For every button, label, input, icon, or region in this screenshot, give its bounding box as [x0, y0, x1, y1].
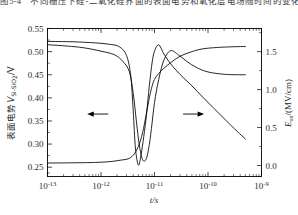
y-right-tick-label: 1.5 — [266, 47, 278, 57]
series-line-1 — [48, 41, 246, 165]
y-left-tick-label: 0.35 — [28, 116, 44, 126]
y-left-tick-label: 0.40 — [28, 93, 44, 103]
y-left-tick-label: 0.55 — [28, 24, 44, 34]
svg-text:Eox/(MV/cm): Eox/(MV/cm) — [283, 79, 294, 128]
x-tick-label: 10-10 — [199, 180, 217, 191]
chart-plot: 10-1310-1210-1110-1010-9 0.250.300.350.4… — [0, 0, 298, 215]
series-line-2 — [48, 45, 246, 162]
data-series-group — [48, 41, 246, 165]
right-arrow-head — [198, 111, 205, 116]
y-axis-right-ticks — [257, 33, 262, 166]
y-axis-left-title: 表面电势VSi-SiO2/V — [6, 66, 18, 139]
right-arrow — [183, 111, 204, 116]
y-right-tick-label: 0.5 — [266, 123, 278, 133]
y-axis-right-tick-labels: 0.00.51.01.5 — [266, 47, 278, 171]
left-arrow-head — [87, 111, 94, 116]
y-left-tick-label: 0.45 — [28, 70, 44, 80]
y-right-tick-label: 0.0 — [266, 161, 278, 171]
x-tick-label: 10-13 — [39, 180, 57, 191]
y-axis-right-title: Eox/(MV/cm) — [283, 79, 294, 128]
x-axis-tick-labels: 10-1310-1210-1110-1010-9 — [39, 180, 269, 191]
figure-container: 图5-4 不同栅压下硅-二氧化硅界面的表面电势和氧化层电场随时间的变化 10-1… — [0, 0, 298, 215]
left-arrow — [87, 111, 108, 116]
series-line-0 — [48, 47, 246, 164]
svg-text:表面电势VSi-SiO2/V: 表面电势VSi-SiO2/V — [6, 66, 18, 139]
x-tick-label: 10-12 — [92, 180, 110, 191]
x-tick-label: 10-11 — [146, 180, 163, 191]
y-left-tick-label: 0.30 — [28, 139, 44, 149]
y-left-tick-label: 0.25 — [28, 162, 44, 172]
y-axis-left-tick-labels: 0.250.300.350.400.450.500.55 — [28, 24, 44, 173]
y-axis-left-ticks — [48, 29, 53, 173]
x-axis-title: t/s — [150, 195, 159, 205]
y-left-tick-label: 0.50 — [28, 47, 44, 57]
y-right-tick-label: 1.0 — [266, 85, 278, 95]
x-tick-label: 10-9 — [254, 180, 268, 191]
